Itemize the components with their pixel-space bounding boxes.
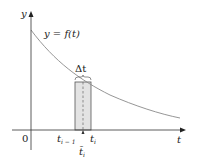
- left-endpoint-subscript: i − 1: [61, 138, 76, 145]
- y-axis-label: y: [20, 8, 27, 19]
- x-axis-label: t: [177, 134, 182, 145]
- delta-t-label: Δt: [75, 63, 86, 74]
- right-endpoint-subscript: i: [94, 138, 96, 145]
- x-axis-arrow-icon: [180, 128, 186, 133]
- sample-point-tick-icon: [82, 130, 85, 134]
- origin-label: 0: [22, 133, 28, 144]
- curve-label: y = f(t): [43, 28, 80, 39]
- curve-f-of-t: [31, 30, 180, 118]
- riemann-rectangle-diagram: y y = f(t) Δt 0 t t i − 1 t i t̄ i: [0, 0, 197, 166]
- sample-point-subscript: i: [83, 151, 85, 158]
- diagram-canvas: y y = f(t) Δt 0 t t i − 1 t i t̄ i: [0, 0, 197, 166]
- y-axis-arrow-icon: [29, 11, 34, 17]
